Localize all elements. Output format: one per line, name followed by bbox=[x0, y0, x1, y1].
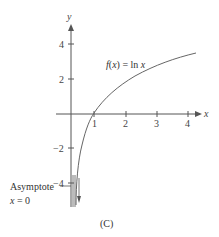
y-tick-4: 4 bbox=[59, 39, 64, 50]
x-axis-label: x bbox=[203, 108, 209, 119]
x-tick-4: 4 bbox=[185, 118, 190, 129]
y-tick-neg4: −4 bbox=[53, 178, 64, 189]
y-tick-2: 2 bbox=[59, 74, 64, 85]
asymptote-equation: x = 0 bbox=[9, 195, 30, 206]
y-axis-label: y bbox=[66, 11, 72, 22]
x-tick-2: 2 bbox=[123, 118, 128, 129]
function-label: f(x) = ln x bbox=[106, 59, 146, 71]
x-tick-3: 3 bbox=[154, 118, 159, 129]
x-axis-arrow-icon bbox=[195, 111, 202, 117]
down-arrow-icon bbox=[77, 196, 81, 203]
ln-curve bbox=[76, 53, 196, 205]
asymptote-lines bbox=[73, 175, 75, 207]
x-tick-1: 1 bbox=[92, 118, 97, 129]
ln-graph: x y 1 2 3 4 4 2 −2 −4 f(x) = ln x Asympt… bbox=[0, 0, 219, 237]
y-axis-arrow-icon bbox=[68, 24, 74, 31]
figure-caption: (C) bbox=[100, 218, 113, 230]
asymptote-label: Asymptote bbox=[10, 181, 54, 192]
y-tick-neg2: −2 bbox=[53, 143, 64, 154]
